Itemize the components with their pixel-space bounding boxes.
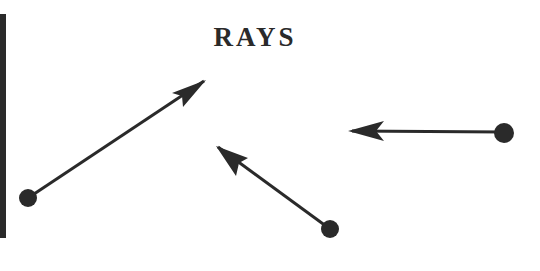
ray-1 bbox=[19, 80, 206, 207]
ray-1-arrowhead-icon bbox=[172, 80, 206, 107]
ray-1-line bbox=[28, 81, 204, 198]
ray-2-endpoint-dot bbox=[321, 220, 339, 238]
ray-3 bbox=[348, 121, 514, 143]
rays-diagram bbox=[0, 0, 540, 271]
ray-2 bbox=[216, 146, 339, 238]
ray-2-arrowhead-icon bbox=[216, 146, 248, 176]
ray-3-endpoint-dot bbox=[494, 123, 514, 143]
ray-1-endpoint-dot bbox=[19, 189, 37, 207]
